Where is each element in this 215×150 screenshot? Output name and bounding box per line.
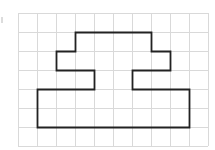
grid-figure (0, 0, 215, 150)
